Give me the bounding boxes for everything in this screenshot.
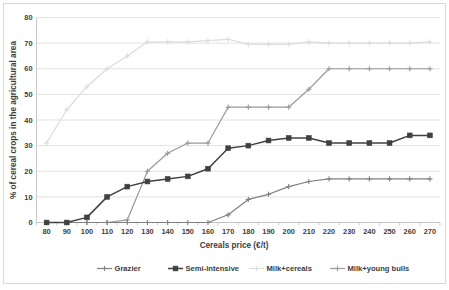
series-point <box>205 140 210 145</box>
legend-item-grazier[interactable]: Grazier <box>97 264 141 273</box>
series-point <box>165 39 170 44</box>
legend-label: Semi-intensive <box>186 264 240 273</box>
series-point <box>145 179 150 184</box>
x-tick-labels-group: 8090100110120130140150160170180190200210… <box>42 227 436 236</box>
series-point <box>266 192 271 197</box>
y-tick-labels-group: 01020304050607080 <box>24 13 32 227</box>
series-point <box>206 166 211 171</box>
chart-svg: 01020304050607080 8090100110120130140150… <box>0 0 449 290</box>
x-tick-label: 80 <box>42 227 50 236</box>
series-point <box>185 39 190 44</box>
series-point <box>367 176 372 181</box>
x-tick-label: 250 <box>383 227 395 236</box>
series-point <box>205 220 210 225</box>
series-point <box>246 105 251 110</box>
series-point <box>226 146 231 151</box>
series-point <box>105 194 110 199</box>
series-point <box>286 42 291 47</box>
series-point <box>367 141 372 146</box>
series-point <box>185 220 190 225</box>
x-tick-label: 210 <box>303 227 315 236</box>
series-point <box>327 141 332 146</box>
series-point <box>347 141 352 146</box>
series-point <box>306 179 311 184</box>
series-point <box>306 136 311 141</box>
x-tick-label: 180 <box>242 227 254 236</box>
x-tick-label: 90 <box>63 227 71 236</box>
series-point <box>387 176 392 181</box>
x-tick-label: 100 <box>81 227 93 236</box>
series-point <box>428 133 433 138</box>
series-point <box>367 41 372 46</box>
series-grazier <box>44 176 433 225</box>
x-tick-label: 130 <box>141 227 153 236</box>
series-point <box>125 184 130 189</box>
y-tick-label: 0 <box>28 218 32 227</box>
legend-item-milk-cereals[interactable]: Milk+cereals <box>249 264 312 273</box>
x-tick-label: 200 <box>283 227 295 236</box>
legend-item-milk-young-bulls[interactable]: Milk+young bulls <box>330 264 409 273</box>
series-milk-cereals <box>44 37 433 146</box>
series-point <box>185 140 190 145</box>
y-tick-label: 20 <box>24 167 32 176</box>
x-tick-label: 260 <box>404 227 416 236</box>
y-tick-label: 40 <box>24 116 32 125</box>
x-tick-label: 150 <box>182 227 194 236</box>
chart-container: 01020304050607080 8090100110120130140150… <box>0 0 449 290</box>
series-point <box>226 37 231 42</box>
series-point <box>427 176 432 181</box>
series-point <box>266 138 271 143</box>
series-point <box>246 143 251 148</box>
legend-label: Milk+cereals <box>267 264 312 273</box>
series-point <box>347 176 352 181</box>
legend-item-semi-intensive[interactable]: Semi-intensive <box>168 264 239 273</box>
series-point <box>44 140 49 145</box>
series-point <box>326 176 331 181</box>
series-point <box>387 141 392 146</box>
y-tick-label: 80 <box>24 13 32 22</box>
series-point <box>427 39 432 44</box>
series-point <box>266 105 271 110</box>
series-point <box>185 174 190 179</box>
x-tick-label: 270 <box>424 227 436 236</box>
legend-label: Grazier <box>115 264 141 273</box>
series-point <box>286 184 291 189</box>
series-point <box>85 215 90 220</box>
series-point <box>306 39 311 44</box>
series-point <box>427 66 432 71</box>
series-point <box>84 220 89 225</box>
legend-swatch-marker <box>254 266 259 271</box>
x-tick-label: 240 <box>363 227 375 236</box>
series-point <box>105 220 110 225</box>
legend-swatch-marker <box>335 266 340 271</box>
axes-group <box>37 18 441 226</box>
y-tick-label: 10 <box>24 193 32 202</box>
x-tick-label: 230 <box>343 227 355 236</box>
series-point <box>326 41 331 46</box>
y-tick-label: 30 <box>24 141 32 150</box>
series-point <box>286 136 291 141</box>
y-axis-title: % of cereal crops in the agricultural ar… <box>9 41 18 199</box>
series-point <box>145 220 150 225</box>
x-tick-label: 120 <box>121 227 133 236</box>
legend-swatch-marker <box>173 266 178 271</box>
series-point <box>165 177 170 182</box>
series-point <box>246 42 251 47</box>
series-point <box>205 38 210 43</box>
x-tick-label: 190 <box>262 227 274 236</box>
x-tick-label: 160 <box>202 227 214 236</box>
series-point <box>387 41 392 46</box>
series-point <box>226 105 231 110</box>
x-tick-label: 220 <box>323 227 335 236</box>
series-point <box>367 66 372 71</box>
series-point <box>387 66 392 71</box>
series-point <box>407 66 412 71</box>
legend-label: Milk+young bulls <box>348 264 410 273</box>
x-axis-title: Cereals price (€/t) <box>200 241 269 250</box>
x-tick-label: 140 <box>161 227 173 236</box>
series-point <box>407 41 412 46</box>
series-point <box>165 220 170 225</box>
gridlines-group <box>37 18 441 223</box>
x-tick-label: 170 <box>222 227 234 236</box>
y-tick-label: 50 <box>24 90 32 99</box>
